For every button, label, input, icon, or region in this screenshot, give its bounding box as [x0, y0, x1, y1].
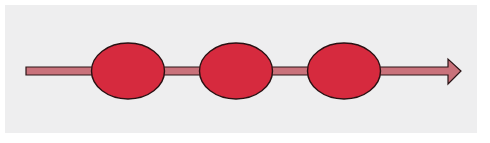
nodes-group [92, 43, 381, 99]
node-ellipse-3 [308, 43, 381, 99]
node-ellipse-2 [200, 43, 273, 99]
node-ellipse-1 [92, 43, 165, 99]
diagram-canvas [0, 0, 490, 143]
